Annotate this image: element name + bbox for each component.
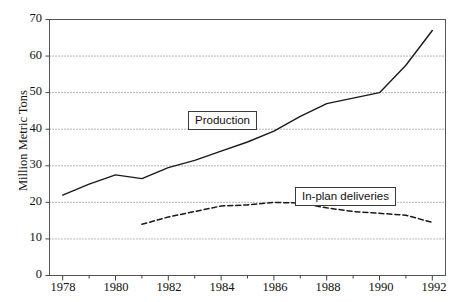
chart-figure: Million Metric Tons 70 60 50 40 30 20 10…: [0, 0, 468, 302]
plot-area: [0, 0, 468, 302]
axis-frame: [50, 20, 446, 276]
series-label-in-plan-deliveries: In-plan deliveries: [295, 187, 396, 206]
y-tick-label-30: 30: [8, 157, 42, 172]
x-tick-label-1992: 1992: [409, 280, 459, 295]
y-tick-label-0: 0: [8, 267, 42, 282]
x-tick-label-1984: 1984: [197, 280, 247, 295]
y-tick-label-20: 20: [8, 194, 42, 209]
x-tick-label-1982: 1982: [144, 280, 194, 295]
axis-ticks: [46, 20, 433, 281]
y-tick-label-70: 70: [8, 11, 42, 26]
y-tick-label-10: 10: [8, 230, 42, 245]
x-tick-label-1988: 1988: [303, 280, 353, 295]
x-tick-label-1978: 1978: [38, 280, 88, 295]
y-tick-label-40: 40: [8, 121, 42, 136]
gridlines: [50, 56, 446, 239]
x-tick-label-1986: 1986: [250, 280, 300, 295]
y-tick-label-50: 50: [8, 84, 42, 99]
x-tick-label-1990: 1990: [356, 280, 406, 295]
x-tick-label-1980: 1980: [91, 280, 141, 295]
series-label-production: Production: [188, 111, 257, 130]
y-tick-label-60: 60: [8, 48, 42, 63]
